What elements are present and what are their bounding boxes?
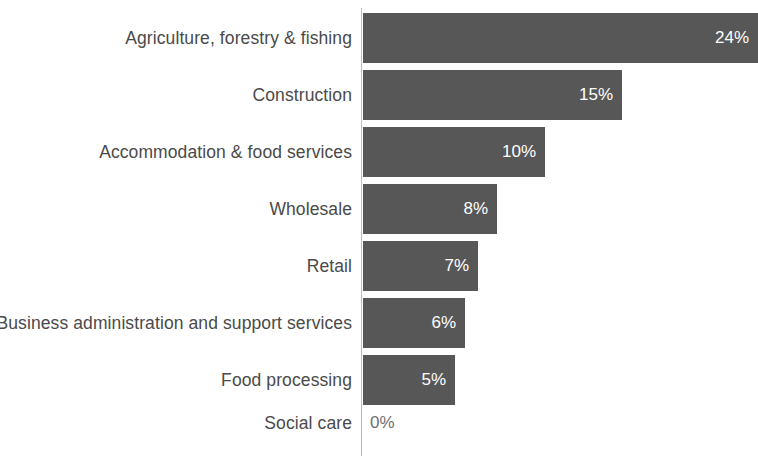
chart-row: Social care 0% bbox=[0, 398, 758, 448]
bar: 7% bbox=[363, 241, 478, 291]
category-label: Accommodation & food services bbox=[99, 127, 352, 177]
bar-value-label: 8% bbox=[463, 184, 488, 234]
chart-row: Accommodation & food services 10% bbox=[0, 127, 758, 177]
category-label: Social care bbox=[264, 398, 352, 448]
bar-value-label: 6% bbox=[431, 298, 456, 348]
bar-value-label: 7% bbox=[444, 241, 469, 291]
category-label: Wholesale bbox=[269, 184, 352, 234]
chart-row: Wholesale 8% bbox=[0, 184, 758, 234]
bar: 6% bbox=[363, 298, 465, 348]
category-label: Retail bbox=[307, 241, 352, 291]
bar: 15% bbox=[363, 70, 622, 120]
horizontal-bar-chart: Agriculture, forestry & fishing 24% Cons… bbox=[0, 0, 758, 462]
category-label: Agriculture, forestry & fishing bbox=[125, 13, 352, 63]
chart-row: Construction 15% bbox=[0, 70, 758, 120]
bar-value-label: 0% bbox=[370, 398, 395, 448]
bar-value-label: 15% bbox=[579, 70, 613, 120]
bar: 8% bbox=[363, 184, 497, 234]
category-label: Business administration and support serv… bbox=[0, 298, 352, 348]
bar: 24% bbox=[363, 13, 758, 63]
category-label: Construction bbox=[253, 70, 352, 120]
chart-row: Business administration and support serv… bbox=[0, 298, 758, 348]
bar-value-label: 24% bbox=[715, 13, 749, 63]
chart-row: Retail 7% bbox=[0, 241, 758, 291]
chart-row: Agriculture, forestry & fishing 24% bbox=[0, 13, 758, 63]
bar-value-label: 10% bbox=[502, 127, 536, 177]
bar: 10% bbox=[363, 127, 545, 177]
